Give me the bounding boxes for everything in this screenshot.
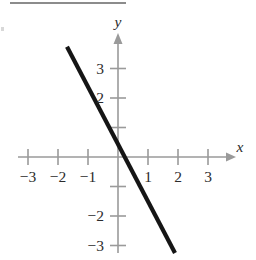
line-y-equals-minus-2x — [67, 47, 175, 253]
x-tick-label--3: −3 — [20, 168, 37, 185]
y-tick-label-2: 2 — [96, 89, 104, 106]
x-tick-label--2: −2 — [50, 168, 67, 185]
y-axis-label: y — [113, 13, 122, 30]
x-tick-label--1: −1 — [80, 168, 97, 185]
y-axis-arrow-icon — [114, 33, 123, 44]
x-tick-label-1: 1 — [144, 168, 152, 185]
x-axis-arrow-icon — [226, 153, 236, 162]
coordinate-plane: −3 −2 −1 1 2 3 3 2 −2 −3 x y — [0, 0, 256, 260]
x-axis-label: x — [236, 138, 244, 155]
x-tick-label-2: 2 — [174, 168, 182, 185]
graph-figure: −3 −2 −1 1 2 3 3 2 −2 −3 x y — [0, 0, 256, 260]
y-tick-label--2: −2 — [88, 207, 105, 224]
y-tick-label--3: −3 — [88, 237, 105, 254]
x-tick-label-3: 3 — [204, 168, 212, 185]
y-tick-label-3: 3 — [96, 60, 104, 77]
